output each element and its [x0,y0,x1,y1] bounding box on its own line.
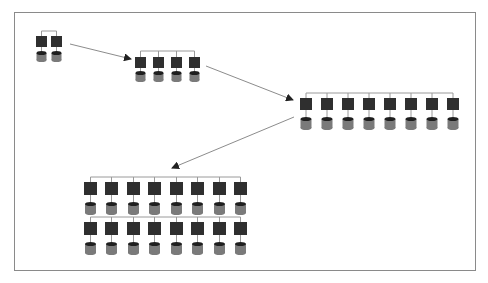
server-icon [234,182,247,195]
database-icon [149,242,160,255]
server-icon [36,36,47,47]
server-node [148,177,161,215]
server-icon [170,222,183,235]
database-icon [172,71,182,82]
server-node [51,31,62,62]
server-icon [300,98,312,110]
server-icon [127,182,140,195]
clusters-group [36,31,459,255]
server-node [105,177,118,215]
server-node [384,93,396,130]
server-node [213,177,226,215]
server-node [234,177,247,215]
database-icon [136,71,146,82]
database-icon [343,117,354,130]
server-node [105,217,118,255]
database-icon [128,202,139,215]
server-icon [213,222,226,235]
server-icon [384,98,396,110]
server-node [127,177,140,215]
server-icon [213,182,226,195]
database-icon [85,242,96,255]
server-node [405,93,417,130]
server-node [191,217,204,255]
server-icon [148,222,161,235]
server-icon [234,222,247,235]
cluster-8 [300,93,459,130]
server-icon [171,57,182,68]
server-node [191,177,204,215]
server-icon [127,222,140,235]
server-icon [321,98,333,110]
database-icon [214,242,225,255]
database-icon [52,51,62,62]
server-icon [170,182,183,195]
database-icon [190,71,200,82]
scaling-diagram [0,0,488,283]
database-icon [322,117,333,130]
arrow-4-to-8 [206,66,293,100]
database-icon [406,117,417,130]
server-node [426,93,438,130]
database-icon [106,242,117,255]
database-icon [154,71,164,82]
server-icon [153,57,164,68]
server-node [171,51,182,82]
server-node [321,93,333,130]
cluster-4 [135,51,200,82]
server-icon [148,182,161,195]
server-icon [105,182,118,195]
arrow-8-to-16 [172,117,294,168]
database-icon [106,202,117,215]
server-node [234,217,247,255]
cluster-2 [36,31,62,62]
server-icon [426,98,438,110]
server-node [135,51,146,82]
server-icon [135,57,146,68]
server-node [447,93,459,130]
server-icon [189,57,200,68]
database-icon [235,202,246,215]
database-icon [171,202,182,215]
server-icon [447,98,459,110]
database-icon [448,117,459,130]
server-icon [342,98,354,110]
database-icon [192,202,203,215]
server-icon [363,98,375,110]
server-node [84,177,97,215]
database-icon [192,242,203,255]
server-icon [84,222,97,235]
server-node [36,31,47,62]
server-node [300,93,312,130]
server-icon [191,222,204,235]
server-node [127,217,140,255]
database-icon [37,51,47,62]
database-icon [214,202,225,215]
server-node [342,93,354,130]
server-icon [105,222,118,235]
server-node [148,217,161,255]
arrow-2-to-4 [70,44,131,59]
database-icon [85,202,96,215]
database-icon [427,117,438,130]
server-node [213,217,226,255]
database-icon [301,117,312,130]
database-icon [385,117,396,130]
server-node [170,217,183,255]
database-icon [149,202,160,215]
server-icon [51,36,62,47]
server-node [170,177,183,215]
server-node [84,217,97,255]
server-node [153,51,164,82]
database-icon [364,117,375,130]
database-icon [171,242,182,255]
server-node [189,51,200,82]
server-icon [405,98,417,110]
server-icon [191,182,204,195]
database-icon [128,242,139,255]
server-node [363,93,375,130]
server-icon [84,182,97,195]
cluster-16 [84,177,247,255]
database-icon [235,242,246,255]
